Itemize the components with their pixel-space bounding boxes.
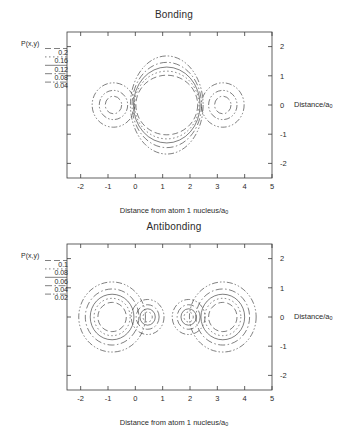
legend-row: 0.04 (20, 82, 68, 90)
contour-line (209, 302, 237, 331)
x-tick-label: 3 (215, 182, 219, 191)
contour-line (85, 289, 139, 345)
y-tick-label: 0 (280, 313, 284, 322)
legend-title-bonding: P(x,y) (20, 40, 68, 48)
legend-value: 0.06 (54, 278, 68, 286)
y-axis-label-bonding: Distance/a0 (294, 100, 332, 109)
legend-value: 0.02 (54, 294, 68, 302)
y-tick-label: -1 (280, 130, 287, 139)
y-tick-label: 2 (280, 254, 284, 263)
x-tick-label: -1 (105, 182, 112, 191)
y-tick-label: 2 (280, 42, 284, 51)
y-axis-label-text: Distance/a (294, 312, 329, 321)
contour-line (130, 56, 203, 154)
contour-line (184, 312, 193, 322)
legend-row: 0.04 (20, 286, 68, 294)
y-axis-label-antibonding: Distance/a0 (294, 312, 332, 321)
y-axis-label-subscript: 0 (329, 315, 332, 321)
legend-row: 0.12 (20, 66, 68, 74)
contour-line (215, 96, 231, 114)
x-axis-label-text: Distance from atom 1 nucleus/a (120, 418, 225, 427)
x-axis-label-antibonding: Distance from atom 1 nucleus/a0 (0, 418, 348, 427)
contour-line (136, 305, 159, 330)
legend-value: 0.2 (58, 49, 68, 57)
x-tick-label: 2 (188, 394, 192, 403)
x-tick-label: 0 (133, 394, 137, 403)
legend-row: 0.06 (20, 278, 68, 286)
contour-line (98, 302, 126, 331)
contour-line (209, 90, 237, 119)
x-tick-label: 4 (243, 394, 247, 403)
legend-row: 0.08 (20, 74, 68, 82)
legend-bonding: P(x,y) 0.2 0.16 0.12 0.08 0.04 (20, 40, 68, 91)
x-tick-label: 4 (243, 182, 247, 191)
contour-line (205, 298, 241, 335)
legend-row: 0.16 (20, 57, 68, 65)
contour-line (92, 83, 135, 127)
legend-row: 0.1 (20, 261, 68, 269)
x-tick-label: 5 (270, 394, 274, 403)
contour-line (177, 305, 200, 330)
contour-line (140, 309, 155, 325)
y-tick-label: -1 (280, 342, 287, 351)
y-axis-label-text: Distance/a (294, 100, 329, 109)
legend-title-antibonding: P(x,y) (20, 252, 68, 260)
y-axis-label-subscript: 0 (329, 103, 332, 109)
contour-line (79, 282, 146, 352)
contour-line (133, 67, 200, 143)
y-tick-label: 1 (280, 284, 284, 293)
contour-line (181, 309, 196, 325)
contour-line (90, 294, 134, 340)
x-tick-label: 3 (215, 394, 219, 403)
y-tick-label: 0 (280, 101, 284, 110)
x-tick-label: 2 (188, 182, 192, 191)
y-tick-label: 1 (280, 72, 284, 81)
contour-line (189, 282, 256, 352)
x-tick-label: 5 (270, 182, 274, 191)
y-tick-label: -2 (280, 159, 287, 168)
contour-line (201, 294, 245, 340)
contour-line (135, 71, 200, 139)
legend-row: 0.08 (20, 269, 68, 277)
x-tick-label: 0 (133, 182, 137, 191)
x-tick-label: -1 (105, 394, 112, 403)
x-axis-label-subscript: 0 (225, 421, 228, 427)
contour-line (99, 90, 127, 119)
contour-line (201, 83, 244, 127)
legend-antibonding: P(x,y) 0.1 0.08 0.06 0.04 0.02 (20, 252, 68, 303)
legend-value: 0.12 (54, 66, 68, 74)
plot-panel-bonding: Bonding -2-1012345210-1-2 P(x,y) 0.2 0.1… (0, 0, 348, 211)
contour-line (196, 289, 250, 345)
contour-line (94, 298, 130, 335)
contour-line (136, 75, 198, 135)
contour-line (143, 312, 152, 322)
legend-value: 0.08 (54, 74, 68, 82)
legend-value: 0.04 (54, 82, 68, 90)
legend-value: 0.08 (54, 269, 68, 277)
legend-row: 0.2 (20, 49, 68, 57)
legend-value: 0.16 (54, 57, 68, 65)
x-tick-label: 1 (161, 182, 165, 191)
plot-panel-antibonding: Antibonding -2-1012345210-1-2 P(x,y) 0.1… (0, 212, 348, 423)
x-tick-label: -2 (77, 394, 84, 403)
x-tick-label: -2 (77, 182, 84, 191)
legend-row: 0.02 (20, 294, 68, 302)
y-tick-label: -2 (280, 371, 287, 380)
legend-value: 0.1 (58, 261, 68, 269)
legend-value: 0.04 (54, 286, 68, 294)
contour-line (105, 96, 121, 114)
x-tick-label: 1 (161, 394, 165, 403)
